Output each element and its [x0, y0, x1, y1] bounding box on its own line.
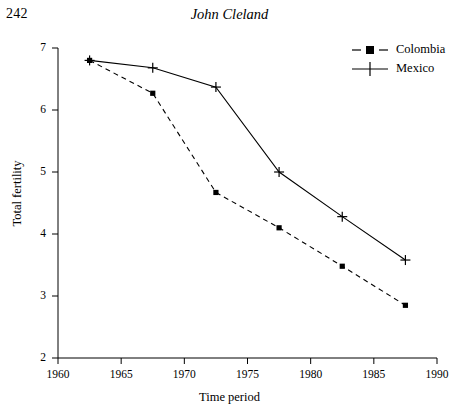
- data-point-mexico-1977.5: [274, 167, 284, 177]
- chart-axes: [52, 48, 437, 364]
- chart-series: [85, 55, 411, 308]
- y-axis-title: Total fertility: [10, 144, 25, 244]
- x-tick-1990: 1990: [417, 369, 457, 381]
- data-point-colombia-1967.5: [150, 91, 155, 96]
- series-line-colombia: [90, 60, 406, 305]
- y-tick-7: 7: [20, 42, 46, 54]
- x-tick-1960: 1960: [38, 369, 78, 381]
- y-tick-3: 3: [20, 290, 46, 302]
- y-tick-2: 2: [20, 352, 46, 364]
- x-tick-1970: 1970: [164, 369, 204, 381]
- x-tick-1965: 1965: [101, 369, 141, 381]
- data-point-mexico-1982.5: [337, 212, 347, 222]
- page-root: 242 John Cleland 234567 1960196519701975…: [0, 0, 459, 415]
- legend-key-colombia: [352, 43, 388, 57]
- x-tick-1975: 1975: [228, 369, 268, 381]
- legend-item-colombia: Colombia: [352, 40, 445, 59]
- legend-item-mexico: Mexico: [352, 59, 445, 78]
- data-point-mexico-1967.5: [148, 63, 158, 73]
- x-tick-1980: 1980: [291, 369, 331, 381]
- data-point-mexico-1962.5: [85, 55, 95, 65]
- data-point-mexico-1987.5: [400, 255, 410, 265]
- data-point-colombia-1987.5: [403, 303, 408, 308]
- legend-key-mexico: [352, 62, 388, 76]
- x-tick-1985: 1985: [354, 369, 394, 381]
- y-tick-6: 6: [20, 104, 46, 116]
- data-point-mexico-1972.5: [211, 82, 221, 92]
- legend-label-mexico: Mexico: [396, 61, 434, 76]
- x-axis-title: Time period: [0, 390, 459, 405]
- legend-label-colombia: Colombia: [396, 42, 445, 57]
- data-point-colombia-1972.5: [213, 190, 218, 195]
- series-line-mexico: [90, 60, 406, 260]
- chart-legend: Colombia Mexico: [352, 40, 445, 78]
- fertility-line-chart: 234567 1960196519701975198019851990 Time…: [0, 0, 459, 415]
- data-point-colombia-1982.5: [340, 264, 345, 269]
- data-point-colombia-1977.5: [276, 225, 281, 230]
